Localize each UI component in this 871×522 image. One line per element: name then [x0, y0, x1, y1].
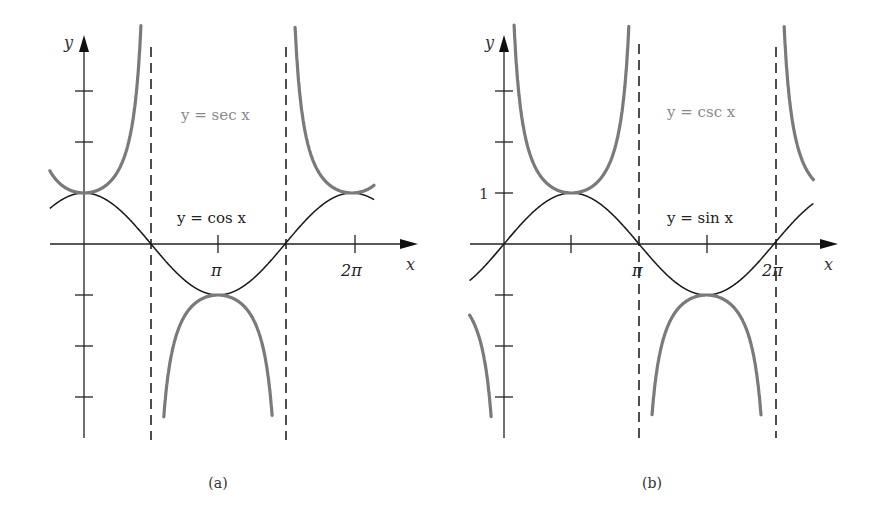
x-tick-pi: π [631, 261, 643, 280]
x-axis [50, 235, 418, 253]
caption-b: (b) [642, 475, 662, 491]
x-tick-2pi: 2π [761, 261, 783, 280]
sin-label: y = sin x [666, 209, 734, 227]
csc-label: y = csc x [666, 103, 736, 121]
y-axis-label: y [63, 33, 74, 52]
y-tick-1: 1 [479, 185, 489, 203]
panel-b: y x π 2π 1 y = csc x y = sin x (b) [470, 25, 838, 491]
sec-label: y = sec x [180, 106, 250, 124]
y-axis [75, 35, 93, 438]
y-axis-label: y [484, 33, 495, 52]
x-axis-label: x [406, 255, 415, 274]
x-tick-pi: π [210, 261, 222, 280]
x-tick-2pi: 2π [340, 261, 362, 280]
panel-a: y x π 2π y = sec x y = cos x (a) [50, 26, 418, 491]
csc-curve [470, 25, 814, 417]
caption-a: (a) [208, 475, 227, 491]
x-axis-label: x [824, 255, 833, 274]
cos-label: y = cos x [176, 209, 246, 227]
figure: y x π 2π y = sec x y = cos x (a) [0, 0, 871, 522]
x-axis [470, 235, 838, 253]
